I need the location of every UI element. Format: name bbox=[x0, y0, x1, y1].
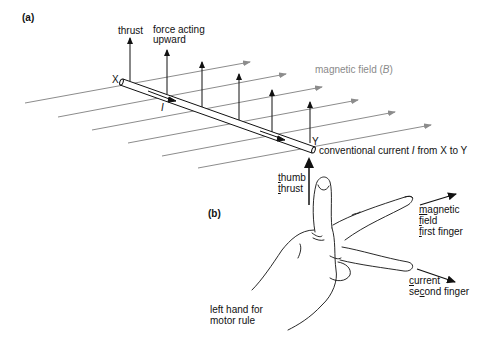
first-finger-rest: irst finger bbox=[422, 226, 463, 237]
second-finger-label: current second finger bbox=[409, 275, 469, 297]
thumb-rest: humb bbox=[281, 172, 306, 183]
field-label-prefix: magnetic field ( bbox=[315, 64, 383, 75]
current-label-prefix: conventional current bbox=[319, 145, 412, 156]
first-finger-label: magnetic field first finger bbox=[419, 204, 463, 237]
magnetic-rest: agnetic bbox=[427, 204, 459, 215]
left-hand-drawing bbox=[252, 177, 413, 330]
caption-line1: left hand for bbox=[210, 304, 263, 315]
force-label-line2: upward bbox=[153, 34, 186, 45]
panel-b-label: (b) bbox=[208, 208, 221, 219]
field-label-suffix: ) bbox=[389, 64, 392, 75]
panel-a-label: (a) bbox=[22, 12, 34, 23]
end-x-label: X bbox=[112, 74, 119, 85]
thumb-thrust-label: thumb thrust bbox=[278, 172, 306, 194]
caption-line2: motor rule bbox=[210, 315, 263, 326]
current-label-suffix: from X to Y bbox=[415, 145, 468, 156]
current-symbol-label: I bbox=[161, 102, 164, 113]
field-rest: ield bbox=[422, 215, 438, 226]
conventional-current-label: conventional current I from X to Y bbox=[319, 145, 467, 156]
magnetic-field-label: magnetic field (B) bbox=[315, 64, 393, 75]
force-arrows bbox=[130, 38, 310, 143]
current-rest: urrent bbox=[414, 275, 440, 286]
diagram-drawing bbox=[0, 0, 477, 338]
thrust-rest: hrust bbox=[281, 183, 303, 194]
second-part-a: se bbox=[409, 286, 420, 297]
conductor-rod bbox=[119, 78, 316, 153]
second-part-b: ond finger bbox=[425, 286, 469, 297]
thrust-label: thrust bbox=[118, 25, 143, 36]
caption-left-hand: left hand for motor rule bbox=[210, 304, 263, 326]
end-y-label: Y bbox=[312, 136, 319, 147]
